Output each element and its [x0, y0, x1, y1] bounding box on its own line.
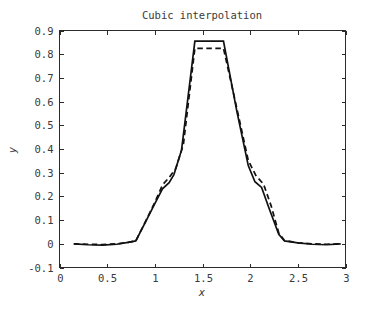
- x-tick-label: 1: [152, 272, 158, 284]
- x-tick-label: 3: [343, 272, 349, 284]
- y-axis-label: y: [6, 146, 18, 154]
- y-tick-label: 0.1: [35, 214, 54, 226]
- y-axis-tick-labels: -0.100.10.20.30.40.50.60.70.80.9: [28, 25, 53, 274]
- x-tick-label: 2: [247, 272, 253, 284]
- y-tick-label: 0.7: [35, 72, 54, 84]
- y-tick-label: 0.8: [35, 48, 54, 60]
- chart-title: Cubic interpolation: [142, 9, 262, 21]
- y-axis-tick-marks: [60, 32, 346, 269]
- plot-frame-box: [60, 31, 346, 268]
- chart-plot-area: Cubic interpolation y x -0.100.10.20.30.…: [0, 0, 368, 312]
- x-axis-tick-marks: [61, 31, 347, 268]
- y-tick-label: 0.5: [35, 119, 54, 131]
- x-tick-label: 2.5: [289, 272, 308, 284]
- figure-canvas: Cubic interpolation y x -0.100.10.20.30.…: [0, 0, 368, 312]
- y-tick-label: 0: [47, 238, 53, 250]
- data-series-dashed: [74, 48, 341, 244]
- x-axis-label: x: [198, 286, 206, 298]
- x-tick-label: 0: [57, 272, 63, 284]
- x-axis-tick-labels: 00.511.522.53: [57, 272, 349, 284]
- data-series-solid: [74, 41, 341, 245]
- y-tick-label: 0.6: [35, 96, 54, 108]
- y-tick-label: 0.9: [35, 25, 54, 37]
- data-series-layer: [74, 41, 341, 245]
- x-tick-label: 0.5: [98, 272, 117, 284]
- x-tick-label: 1.5: [194, 272, 213, 284]
- y-tick-label: -0.1: [28, 262, 53, 274]
- y-tick-label: 0.4: [35, 143, 54, 155]
- y-tick-label: 0.3: [35, 167, 54, 179]
- y-tick-label: 0.2: [35, 190, 54, 202]
